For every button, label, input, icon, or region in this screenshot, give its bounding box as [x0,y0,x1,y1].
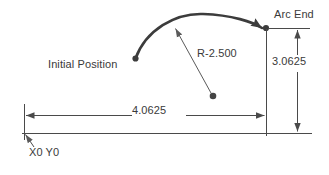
initial-position-label: Initial Position [48,58,117,70]
horizontal-dimension-label: 4.0625 [132,104,166,116]
arc-center-point [210,93,217,100]
origin-label: X0 Y0 [29,146,59,158]
radius-leader-line [176,29,212,94]
vertical-dimension-label: 3.0625 [272,55,306,67]
radius-label: R-2.500 [197,47,237,59]
arc-end-label: Arc End [274,8,314,20]
drawing-canvas: Initial Position R-2.500 Arc End 3.0625 … [0,0,329,175]
initial-position-point [132,55,138,61]
